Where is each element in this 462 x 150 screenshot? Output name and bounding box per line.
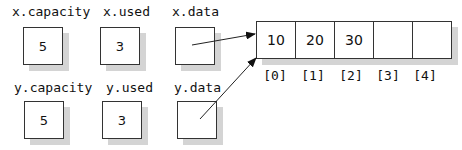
x-data-pointer-arrow bbox=[192, 34, 255, 45]
y-data-pointer-arrow bbox=[200, 58, 256, 119]
pointer-arrows bbox=[0, 0, 462, 150]
